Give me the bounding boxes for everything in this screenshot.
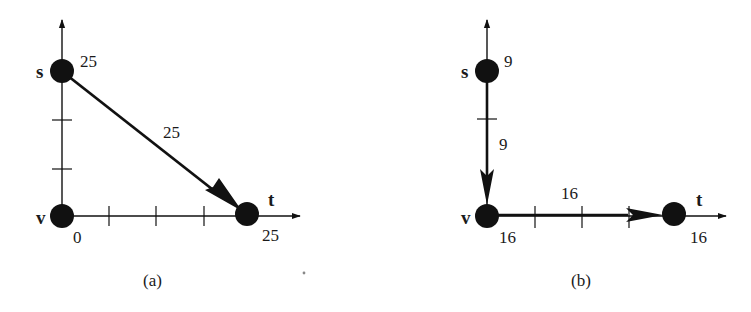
node-s-value: 25 [80,52,97,71]
speck [303,272,306,275]
node-t-label: t [696,189,703,210]
edge-label: 25 [163,123,180,142]
arrowhead-icon [626,208,663,222]
edge-label-v-t: 16 [561,184,578,203]
arrowhead-icon [205,178,242,211]
panel-a: s 25 25 v 0 t 25 (a) [36,20,300,290]
caption-b: (b) [571,271,591,290]
figure: s 25 25 v 0 t 25 (a) s 9 9 v 16 [0,0,751,312]
node-v-value: 16 [499,228,516,247]
node-s [475,59,499,83]
node-s-label: s [461,61,468,82]
node-t [235,202,259,226]
node-s-label: s [36,61,43,82]
node-t [662,202,686,226]
node-s-value: 9 [504,52,513,71]
node-v-value: 0 [73,228,82,247]
panel-b: s 9 9 v 16 16 t 16 (b) [461,20,726,290]
node-v [475,204,499,228]
node-v-label: v [36,207,46,228]
node-t-value: 25 [262,226,279,245]
caption-a: (a) [143,271,162,290]
node-t-label: t [268,189,275,210]
node-t-value: 16 [690,228,707,247]
node-v-label: v [461,207,471,228]
node-v [50,204,74,228]
node-s [50,59,74,83]
edge-s-t [68,76,226,200]
edge-label-s-v: 9 [499,135,508,154]
